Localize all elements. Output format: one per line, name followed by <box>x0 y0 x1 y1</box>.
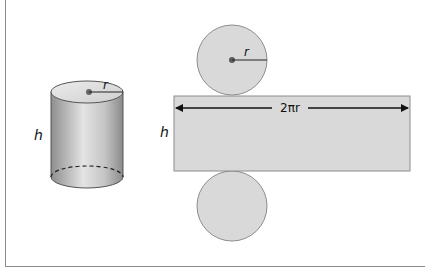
diagram-canvas: r h r 2πr h <box>0 0 425 276</box>
cylinder-3d: r h <box>34 78 123 188</box>
cylinder-side <box>51 92 123 188</box>
net-rectangle: 2πr h <box>160 96 410 171</box>
circumference-label: 2πr <box>280 101 300 115</box>
net-top-circle: r <box>197 25 267 95</box>
rectangle-height-label: h <box>160 124 169 140</box>
net-bottom-circle <box>197 171 267 241</box>
cylinder-height-label: h <box>34 127 43 143</box>
